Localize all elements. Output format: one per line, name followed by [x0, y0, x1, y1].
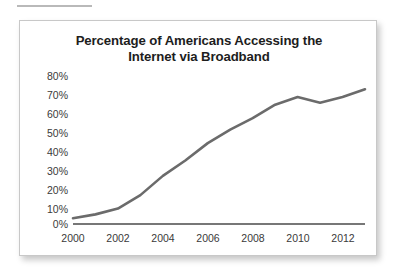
y-tick-label: 30% — [32, 165, 68, 177]
x-tick-label: 2002 — [98, 232, 138, 244]
chart-area: Percentage of Americans Accessing the In… — [20, 21, 376, 255]
x-tick-label: 2010 — [278, 232, 318, 244]
x-tick-label: 2004 — [143, 232, 183, 244]
y-tick-label: 40% — [32, 146, 68, 158]
page-root: Percentage of Americans Accessing the In… — [0, 0, 411, 278]
chart-plot — [20, 21, 376, 255]
y-tick-label: 70% — [32, 89, 68, 101]
x-tick-label: 2000 — [53, 232, 93, 244]
x-tick-label: 2006 — [188, 232, 228, 244]
y-tick-label: 20% — [32, 184, 68, 196]
y-tick-label: 60% — [32, 108, 68, 120]
top-horizontal-rule — [17, 5, 92, 7]
y-tick-label: 50% — [32, 127, 68, 139]
data-series-line — [73, 89, 365, 218]
x-tick-label: 2012 — [323, 232, 363, 244]
y-tick-label: 10% — [32, 203, 68, 215]
x-tick-label: 2008 — [233, 232, 273, 244]
y-tick-label: 80% — [32, 70, 68, 82]
y-tick-label: 0% — [32, 218, 68, 230]
chart-figure-frame: Percentage of Americans Accessing the In… — [19, 20, 377, 256]
